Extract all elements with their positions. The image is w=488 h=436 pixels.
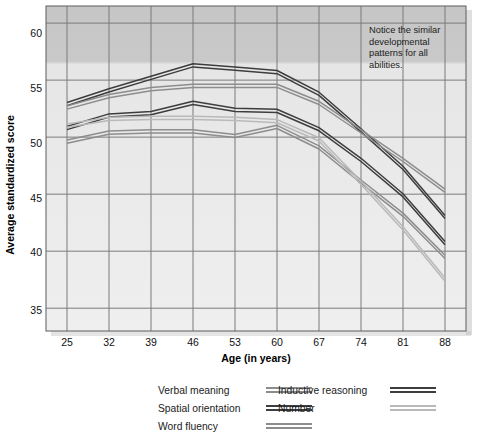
x-tick-67: 67 bbox=[304, 336, 334, 348]
legend-label-inductive-reasoning: Inductive reasoning bbox=[278, 385, 382, 396]
x-tick-74: 74 bbox=[346, 336, 376, 348]
legend-label-spatial-orientation: Spatial orientation bbox=[158, 403, 258, 414]
legend-swatch-number bbox=[390, 405, 436, 412]
annotation-line-1: Notice the similar bbox=[369, 25, 477, 37]
x-tick-39: 39 bbox=[136, 336, 166, 348]
legend-item-number: Number bbox=[278, 400, 436, 416]
x-tick-46: 46 bbox=[178, 336, 208, 348]
chart-figure: Average standardized score 60 55 50 45 4… bbox=[0, 0, 488, 436]
legend-item-inductive-reasoning: Inductive reasoning bbox=[278, 382, 436, 398]
annotation-line-3: patterns for all bbox=[369, 48, 477, 60]
x-tick-88: 88 bbox=[430, 336, 460, 348]
x-tick-60: 60 bbox=[262, 336, 292, 348]
x-tick-25: 25 bbox=[52, 336, 82, 348]
x-tick-53: 53 bbox=[220, 336, 250, 348]
annotation-line-4: abilities. bbox=[369, 60, 477, 72]
chart-legend: Verbal meaning Spatial orientation Word … bbox=[0, 380, 488, 432]
legend-swatch-inductive-reasoning bbox=[390, 387, 436, 394]
legend-item-word-fluency: Word fluency bbox=[158, 418, 312, 434]
x-tick-32: 32 bbox=[94, 336, 124, 348]
legend-label-verbal-meaning: Verbal meaning bbox=[158, 385, 258, 396]
legend-swatch-word-fluency bbox=[266, 423, 312, 430]
x-tick-81: 81 bbox=[388, 336, 418, 348]
annotation-line-2: developmental bbox=[369, 37, 477, 49]
legend-label-word-fluency: Word fluency bbox=[158, 421, 258, 432]
x-axis-title: Age (in years) bbox=[46, 352, 466, 364]
legend-label-number: Number bbox=[278, 403, 382, 414]
chart-annotation: Notice the similar developmental pattern… bbox=[369, 25, 477, 71]
